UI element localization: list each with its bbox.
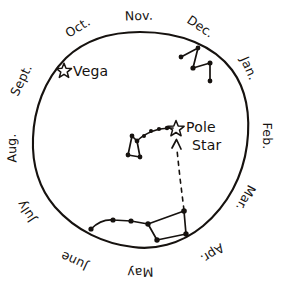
month-label-june: June bbox=[58, 248, 91, 274]
cassiopeia-segments bbox=[181, 48, 210, 81]
month-label-july: July bbox=[13, 197, 39, 226]
month-label-feb: Feb. bbox=[260, 123, 275, 150]
big-dipper-star-1 bbox=[88, 226, 93, 231]
constellation-big-dipper bbox=[88, 208, 188, 243]
month-label-jan: Jan. bbox=[237, 53, 261, 82]
big-dipper-bowl bbox=[148, 211, 186, 240]
little-dipper-star-8 bbox=[138, 155, 143, 160]
vega-label: Vega bbox=[73, 63, 108, 79]
month-label-aug: Aug. bbox=[3, 133, 19, 163]
cassiopeia-star-1 bbox=[179, 55, 184, 60]
little-dipper-star-6 bbox=[130, 134, 135, 139]
pointer-arrow-head-icon bbox=[172, 140, 181, 150]
cassiopeia-star-2 bbox=[196, 46, 201, 51]
cassiopeia-star-4 bbox=[208, 61, 213, 66]
constellation-cassiopeia bbox=[179, 46, 213, 84]
pole-star-icon bbox=[168, 121, 184, 136]
little-dipper-star-7 bbox=[126, 153, 131, 158]
month-label-oct: Oct. bbox=[62, 14, 92, 41]
pole-star-group: Pole Star bbox=[168, 119, 222, 153]
little-dipper-star-5 bbox=[135, 139, 140, 144]
month-labels-group: Nov. Dec. Jan. Feb. Mar. Apr. May June J… bbox=[3, 8, 275, 281]
month-label-nov: Nov. bbox=[124, 8, 153, 24]
pole-star-label-line1: Pole bbox=[186, 119, 216, 135]
big-dipper-star-4 bbox=[145, 221, 150, 226]
star-chart-diagram: Nov. Dec. Jan. Feb. Mar. Apr. May June J… bbox=[0, 0, 290, 283]
big-dipper-star-7 bbox=[181, 208, 187, 214]
month-label-sept: Sept. bbox=[7, 62, 35, 99]
little-dipper-star-4 bbox=[142, 134, 146, 138]
big-dipper-star-5 bbox=[154, 237, 159, 242]
month-label-mar: Mar. bbox=[233, 183, 259, 214]
vega-group: Vega bbox=[57, 63, 109, 79]
month-label-apr: Apr. bbox=[198, 241, 227, 267]
pointer-arrow-group bbox=[172, 140, 184, 211]
big-dipper-star-6 bbox=[183, 231, 188, 236]
star-chart-canvas: Nov. Dec. Jan. Feb. Mar. Apr. May June J… bbox=[0, 0, 290, 283]
big-dipper-star-3 bbox=[128, 218, 133, 223]
cassiopeia-star-3 bbox=[190, 65, 195, 70]
little-dipper-star-3 bbox=[149, 129, 153, 133]
little-dipper-star-2 bbox=[157, 127, 161, 131]
cassiopeia-star-5 bbox=[208, 79, 213, 84]
month-label-dec: Dec. bbox=[184, 12, 216, 41]
pole-star-label-line2: Star bbox=[192, 137, 222, 153]
constellation-little-dipper bbox=[126, 126, 173, 160]
big-dipper-handle bbox=[91, 220, 148, 229]
big-dipper-star-2 bbox=[110, 217, 115, 222]
month-label-may: May bbox=[126, 265, 153, 281]
pointer-dashed-line bbox=[177, 150, 184, 210]
